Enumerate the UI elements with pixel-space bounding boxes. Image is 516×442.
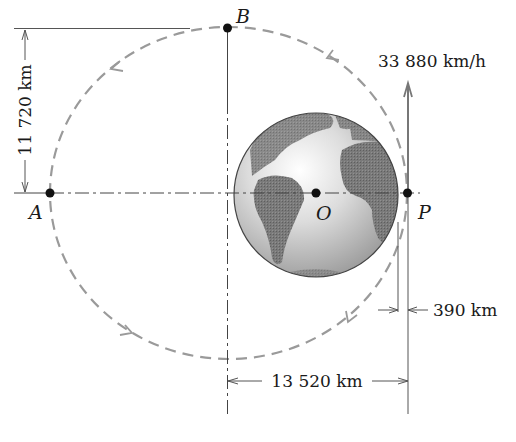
arrow-icon	[327, 50, 339, 60]
point-o-label: O	[316, 202, 332, 224]
point-b-marker	[223, 24, 232, 33]
dimension-altitude-label: 390 km	[433, 300, 497, 320]
point-b-label: B	[235, 5, 250, 27]
point-a-marker	[46, 189, 55, 198]
dimension-altitude	[378, 307, 428, 313]
europe-landmass	[350, 123, 390, 142]
velocity-label: 33 880 km/h	[378, 51, 486, 71]
point-p-marker	[403, 189, 412, 198]
dimension-vertical-label: 11 720 km	[15, 64, 35, 155]
point-o-marker	[312, 189, 321, 198]
dimension-horizontal-label: 13 520 km	[271, 371, 362, 391]
point-p-label: P	[417, 201, 432, 223]
orbit-diagram: 11 720 km 33 880 km/h 390 km 13 520 km A…	[0, 0, 516, 442]
point-a-label: A	[27, 201, 43, 223]
